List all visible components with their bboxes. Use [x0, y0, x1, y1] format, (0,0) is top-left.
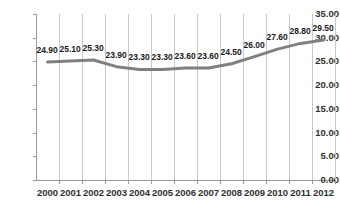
x-axis-tick-mark	[289, 181, 290, 184]
x-axis-tick-mark	[243, 181, 244, 184]
data-value-label: 26.00	[244, 41, 265, 50]
x-axis-tick-mark	[174, 181, 175, 184]
data-value-label: 27.60	[267, 33, 288, 42]
x-axis-line	[36, 180, 335, 181]
x-axis-tick-mark	[335, 181, 336, 184]
data-value-label: 28.80	[290, 27, 311, 36]
x-axis-tick-label: 2012	[308, 188, 340, 198]
y-axis-tick-mark	[33, 180, 36, 181]
x-axis-tick-mark	[128, 181, 129, 184]
x-axis-tick-mark	[82, 181, 83, 184]
data-value-label: 24.90	[37, 46, 58, 55]
data-value-label: 23.60	[198, 52, 219, 61]
x-axis-tick-mark	[266, 181, 267, 184]
x-axis-tick-mark	[197, 181, 198, 184]
x-axis-tick-mark	[312, 181, 313, 184]
data-value-label: 25.30	[83, 44, 104, 53]
data-value-label: 23.60	[175, 52, 196, 61]
data-value-label: 24.50	[221, 48, 242, 57]
x-axis-tick-mark	[59, 181, 60, 184]
x-axis-tick-mark	[220, 181, 221, 184]
x-axis-tick-mark	[151, 181, 152, 184]
gridline-vertical	[335, 14, 336, 180]
data-value-label: 25.10	[60, 45, 81, 54]
data-value-label: 23.90	[106, 51, 127, 60]
chart-title	[0, 0, 339, 3]
data-value-label: 29.50	[313, 24, 334, 33]
plot-area	[36, 14, 335, 180]
data-value-label: 23.30	[152, 53, 173, 62]
data-value-label: 23.30	[129, 53, 150, 62]
x-axis-tick-mark	[105, 181, 106, 184]
series-line	[36, 14, 335, 180]
